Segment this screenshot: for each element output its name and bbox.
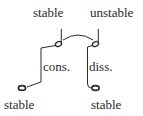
top-right-label: unstable (90, 6, 133, 20)
upper-left-note-icon (55, 29, 63, 47)
top-left-label: stable (33, 6, 63, 20)
bottom-right-label: stable (91, 98, 121, 112)
lower-left-whole-note-icon (18, 86, 25, 91)
lower-right-whole-note-icon (92, 86, 99, 91)
bottom-left-label: stable (4, 98, 34, 112)
slur-arc (63, 35, 93, 40)
consonant-label: cons. (43, 60, 70, 74)
interval-stability-diagram: stable unstable cons. diss. stable stabl… (0, 0, 143, 116)
upper-right-note-icon (92, 29, 100, 47)
dissonant-label: diss. (89, 60, 112, 74)
